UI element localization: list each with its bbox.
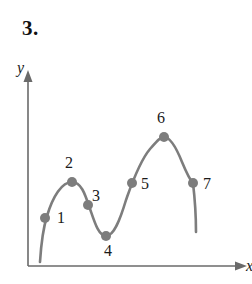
function-curve: [40, 137, 196, 262]
y-axis-arrowhead: [24, 70, 33, 82]
data-point-7: [188, 178, 198, 188]
data-point-6: [159, 132, 169, 142]
figure-root: 3. y x 1234567: [0, 0, 252, 284]
point-label-7: 7: [203, 176, 211, 192]
data-point-2: [67, 177, 77, 187]
x-axis-arrowhead: [235, 262, 247, 271]
point-label-5: 5: [141, 176, 149, 192]
point-label-3: 3: [92, 188, 100, 204]
plot-canvas: [0, 0, 252, 284]
point-label-2: 2: [65, 155, 73, 171]
data-point-4: [101, 231, 111, 241]
curve-group: [40, 137, 196, 262]
point-label-4: 4: [104, 243, 112, 259]
axes-group: [24, 70, 248, 271]
point-label-1: 1: [57, 210, 65, 226]
data-point-1: [40, 213, 50, 223]
point-label-6: 6: [157, 110, 165, 126]
data-point-5: [127, 178, 137, 188]
